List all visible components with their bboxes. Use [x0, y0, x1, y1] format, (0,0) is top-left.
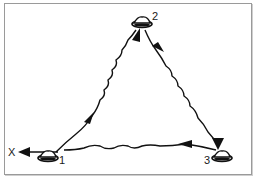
cone-label-2: 2 [152, 10, 158, 22]
path-3-to-1 [64, 144, 216, 150]
arrow-3-to-1 [178, 140, 192, 148]
cone-label-3: 3 [204, 154, 210, 166]
start-label-x: X [8, 146, 16, 158]
arrow-1-to-2-a [84, 112, 94, 124]
arrow-to-x [18, 147, 30, 157]
drill-diagram: X 1 2 3 [0, 0, 256, 179]
arrow-2-to-3-b [212, 138, 224, 150]
cone-icon-3 [212, 151, 232, 162]
cone-label-1: 1 [59, 154, 65, 166]
path-1-to-2 [56, 30, 136, 152]
cone-icon-2 [132, 17, 152, 28]
